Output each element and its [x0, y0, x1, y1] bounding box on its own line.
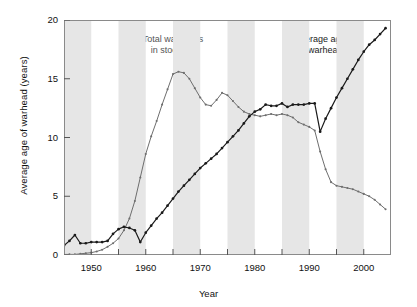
series-point [161, 211, 164, 214]
x-tick-label: 1970 [180, 262, 220, 273]
series-point [352, 188, 354, 190]
series-point [243, 122, 246, 125]
series-point [319, 151, 321, 153]
series-point [248, 115, 251, 118]
series-point [194, 87, 196, 89]
series-point [210, 105, 212, 107]
series-point [199, 97, 201, 99]
series-point [335, 96, 338, 99]
y-tick-label: 20 [32, 14, 58, 25]
series-point [128, 218, 130, 220]
series-point [368, 43, 371, 46]
series-point [117, 228, 120, 231]
series-point [221, 92, 223, 94]
series-point [188, 78, 190, 80]
series-point [177, 71, 179, 73]
series-point [68, 240, 71, 243]
series-point [357, 59, 360, 62]
shaded-band [119, 20, 146, 255]
series-point [226, 94, 228, 96]
series-point [330, 181, 332, 183]
series-point [346, 77, 349, 80]
series-point [374, 199, 376, 201]
shaded-band [282, 20, 309, 255]
series-point [335, 185, 337, 187]
series-point [319, 130, 322, 133]
series-point [314, 129, 316, 131]
series-point [193, 173, 196, 176]
series-point [253, 110, 256, 113]
series-point [139, 241, 142, 244]
series-point [166, 204, 169, 207]
series-point [281, 102, 284, 105]
series-point [101, 241, 104, 244]
series-point [292, 103, 295, 106]
series-point [144, 231, 147, 234]
series-point [368, 195, 370, 197]
series-point [74, 234, 77, 237]
series-point [357, 191, 359, 193]
chart-svg [64, 20, 391, 255]
series-point [243, 111, 245, 113]
series-point [237, 106, 239, 108]
y-axis-label: Average age of warhead (years) [18, 16, 29, 236]
series-point [205, 104, 207, 106]
series-point [330, 107, 333, 110]
series-point [172, 73, 174, 75]
series-point [362, 50, 365, 53]
series-point [85, 252, 87, 254]
series-point [101, 249, 103, 251]
series-point [308, 126, 310, 128]
series-point [139, 176, 141, 178]
series-point [325, 168, 327, 170]
series-point [373, 39, 376, 42]
shaded-band [173, 20, 200, 255]
series-point [188, 178, 191, 181]
series-point [215, 153, 218, 156]
series-point [128, 227, 131, 230]
series-point [123, 225, 126, 228]
plot-area [64, 20, 391, 255]
series-point [183, 72, 185, 74]
series-point [275, 104, 278, 107]
series-point [341, 186, 343, 188]
series-point [123, 229, 125, 231]
y-tick-label: 15 [32, 73, 58, 84]
series-point [270, 104, 273, 107]
series-point [352, 68, 355, 71]
series-point [199, 167, 202, 170]
x-tick-label: 1980 [235, 262, 275, 273]
series-point [150, 224, 153, 227]
series-point [281, 113, 283, 115]
series-point [237, 129, 240, 132]
series-point [270, 113, 272, 115]
x-tick-label: 1960 [126, 262, 166, 273]
series-point [204, 162, 207, 165]
series-point [254, 114, 256, 116]
series-point [134, 200, 136, 202]
series-point [308, 102, 311, 105]
x-axis-label: Year [0, 288, 417, 299]
chart-figure: Average age of warhead (years) Year 0510… [0, 0, 417, 307]
series-point [384, 27, 387, 30]
y-tick-label: 5 [32, 190, 58, 201]
y-tick-label: 0 [32, 249, 58, 260]
x-tick-label: 1950 [71, 262, 111, 273]
series-point [96, 250, 98, 252]
series-point [341, 87, 344, 90]
shaded-band [337, 20, 364, 255]
series-point [232, 100, 234, 102]
series-point [297, 121, 299, 123]
series-point [112, 233, 115, 236]
series-point [107, 246, 109, 248]
series-point [95, 241, 98, 244]
series-point [286, 106, 289, 109]
series-point [155, 217, 158, 220]
series-point [226, 141, 229, 144]
series-point [264, 103, 267, 106]
series-point [248, 113, 250, 115]
series-point [324, 117, 327, 120]
series-point [172, 197, 175, 200]
series-point [161, 104, 163, 106]
series-point [385, 208, 387, 210]
